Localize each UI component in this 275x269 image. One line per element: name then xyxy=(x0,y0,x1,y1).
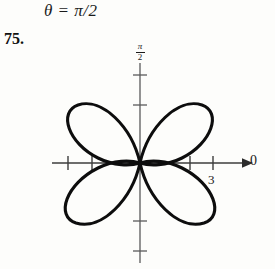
polar-axis-zero-label: 0 xyxy=(250,153,257,169)
textbook-figure-page: θ = π/2 75. π 2 xyxy=(0,0,275,269)
problem-number-label: 75. xyxy=(4,30,24,48)
fraction-numerator: π xyxy=(129,42,151,51)
polar-rose-curve-plot xyxy=(0,55,275,269)
theta-equation-label: θ = π/2 xyxy=(44,1,98,21)
x-tick-3-label: 3 xyxy=(208,172,215,188)
